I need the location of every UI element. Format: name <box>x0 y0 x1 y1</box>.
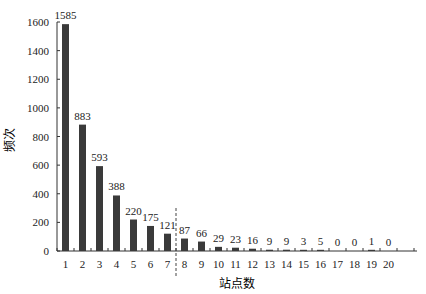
bar <box>300 250 307 251</box>
bar <box>79 125 86 251</box>
bar <box>62 24 69 251</box>
bar-value-label: 23 <box>230 233 242 245</box>
bar-value-label: 0 <box>335 236 341 248</box>
x-tick-label: 19 <box>366 258 378 270</box>
y-tick-label: 600 <box>33 159 50 171</box>
y-tick-label: 1400 <box>27 45 50 57</box>
y-axis: 02004006008001000120014001600 <box>27 16 60 257</box>
bar-value-label: 5 <box>318 235 324 247</box>
x-tick-label: 14 <box>281 258 293 270</box>
x-tick-label: 4 <box>114 258 120 270</box>
bar-value-label: 87 <box>179 224 191 236</box>
bar-value-label: 0 <box>352 236 358 248</box>
bars <box>62 24 375 251</box>
x-axis: 1234567891011121314151617181920 <box>57 248 417 270</box>
bar-value-label: 66 <box>196 227 208 239</box>
y-tick-label: 1600 <box>27 16 50 28</box>
bar-value-label: 1585 <box>55 9 78 21</box>
bar-value-label: 3 <box>301 235 307 247</box>
bar-value-label: 883 <box>74 110 91 122</box>
x-tick-label: 17 <box>332 258 344 270</box>
x-tick-label: 5 <box>131 258 137 270</box>
bar-value-label: 0 <box>386 236 392 248</box>
x-tick-label: 1 <box>63 258 69 270</box>
bar <box>215 247 222 251</box>
bar-value-label: 1 <box>369 235 375 247</box>
y-tick-label: 0 <box>44 245 50 257</box>
x-tick-label: 9 <box>199 258 205 270</box>
bar <box>368 250 375 251</box>
y-tick-label: 200 <box>33 216 50 228</box>
x-tick-label: 6 <box>148 258 154 270</box>
x-tick-label: 2 <box>80 258 86 270</box>
x-tick-label: 3 <box>97 258 103 270</box>
x-tick-label: 13 <box>264 258 276 270</box>
y-tick-label: 800 <box>33 131 50 143</box>
bar <box>249 249 256 251</box>
bar-value-label: 29 <box>213 232 225 244</box>
x-tick-label: 16 <box>315 258 327 270</box>
value-labels: 1585883593388220175121876629231699350010 <box>55 9 392 248</box>
bar-chart: 02004006008001000120014001600 1234567891… <box>0 0 426 294</box>
bar-value-label: 593 <box>91 151 108 163</box>
bar <box>317 250 324 251</box>
bar-value-label: 121 <box>159 219 176 231</box>
x-tick-label: 20 <box>383 258 395 270</box>
bar-value-label: 175 <box>142 211 159 223</box>
x-tick-label: 10 <box>213 258 225 270</box>
bar <box>147 226 154 251</box>
x-tick-label: 15 <box>298 258 310 270</box>
y-tick-label: 400 <box>33 188 50 200</box>
bar-value-label: 220 <box>125 205 142 217</box>
bar <box>96 166 103 251</box>
x-tick-label: 8 <box>182 258 188 270</box>
x-tick-label: 7 <box>165 258 171 270</box>
x-tick-label: 18 <box>349 258 361 270</box>
bar-value-label: 9 <box>267 235 273 247</box>
x-tick-label: 12 <box>247 258 258 270</box>
y-tick-label: 1200 <box>27 73 50 85</box>
bar-value-label: 16 <box>247 234 259 246</box>
x-tick-label: 11 <box>230 258 241 270</box>
bar <box>164 234 171 251</box>
y-axis-label: 频次 <box>3 128 17 152</box>
x-axis-label: 站点数 <box>219 276 255 291</box>
bar <box>181 239 188 251</box>
bar <box>113 195 120 251</box>
bar <box>130 220 137 251</box>
bar-value-label: 9 <box>284 235 290 247</box>
bar-value-label: 388 <box>108 180 125 192</box>
bar <box>232 248 239 251</box>
bar <box>266 250 273 251</box>
bar <box>198 242 205 251</box>
bar <box>283 250 290 251</box>
y-tick-label: 1000 <box>27 102 50 114</box>
